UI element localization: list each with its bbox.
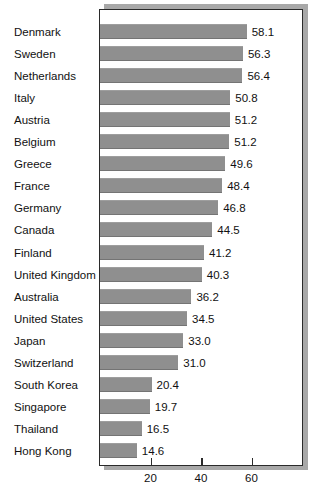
bar-row: Greece49.6 (0, 153, 316, 175)
bar-value-label: 40.3 (207, 264, 229, 286)
bar (100, 267, 202, 282)
bar-row: France48.4 (0, 175, 316, 197)
bar (100, 156, 225, 171)
bar-value-label: 51.2 (235, 109, 257, 131)
x-axis-tick-label: 20 (131, 472, 171, 484)
bar (100, 112, 230, 127)
bar-row: Netherlands56.4 (0, 65, 316, 87)
bar-value-label: 34.5 (192, 308, 214, 330)
category-label: Hong Kong (14, 440, 72, 462)
category-label: Finland (14, 242, 52, 264)
bar-value-label: 19.7 (155, 396, 177, 418)
bar-row: South Korea20.4 (0, 374, 316, 396)
bar (100, 377, 152, 392)
bar-value-label: 56.4 (247, 65, 269, 87)
bar-value-label: 50.8 (235, 87, 257, 109)
bar-row: Thailand16.5 (0, 418, 316, 440)
bar-value-label: 33.0 (188, 330, 210, 352)
category-label: Italy (14, 87, 35, 109)
bar-value-label: 14.6 (142, 440, 164, 462)
bar (100, 222, 212, 237)
bar-row: Sweden56.3 (0, 43, 316, 65)
category-label: Canada (14, 219, 54, 241)
bar-value-label: 56.3 (248, 43, 270, 65)
category-label: Denmark (14, 21, 61, 43)
category-label: Austria (14, 109, 50, 131)
bar (100, 68, 242, 83)
x-axis-tick (201, 458, 203, 465)
bar (100, 289, 191, 304)
category-label: Greece (14, 153, 52, 175)
category-label: Thailand (14, 418, 58, 440)
bar (100, 90, 230, 105)
bar-row: Finland41.2 (0, 242, 316, 264)
x-axis-tick-label: 60 (232, 472, 272, 484)
bar-value-label: 49.6 (230, 153, 252, 175)
bar-row: United Kingdom40.3 (0, 264, 316, 286)
category-label: United Kingdom (14, 264, 96, 286)
bar (100, 200, 218, 215)
bar-row: Hong Kong14.6 (0, 440, 316, 462)
bar (100, 333, 183, 348)
x-axis-tick-label: 40 (181, 472, 221, 484)
bar-value-label: 46.8 (223, 197, 245, 219)
x-axis-tick (252, 458, 254, 465)
category-label: Netherlands (14, 65, 76, 87)
bar-value-label: 16.5 (147, 418, 169, 440)
bar-row: Denmark58.1 (0, 21, 316, 43)
bar (100, 311, 187, 326)
category-label: France (14, 175, 50, 197)
bar-value-label: 41.2 (209, 242, 231, 264)
x-axis-tick (151, 458, 153, 465)
bar (100, 46, 243, 61)
bar-row: Singapore19.7 (0, 396, 316, 418)
bar-value-label: 51.2 (234, 131, 256, 153)
category-label: Singapore (14, 396, 66, 418)
bar-row: Italy50.8 (0, 87, 316, 109)
bar (100, 24, 247, 39)
bar-value-label: 20.4 (157, 374, 179, 396)
category-label: Australia (14, 286, 59, 308)
category-label: South Korea (14, 374, 78, 396)
bar (100, 134, 229, 149)
bar-row: Austria51.2 (0, 109, 316, 131)
bar-value-label: 44.5 (217, 219, 239, 241)
category-label: Germany (14, 197, 61, 219)
bar (100, 443, 137, 458)
category-label: Belgium (14, 131, 56, 153)
bar-value-label: 58.1 (252, 21, 274, 43)
bar (100, 355, 178, 370)
bar (100, 178, 222, 193)
bar-value-label: 48.4 (227, 175, 249, 197)
bar-chart: Denmark58.1Sweden56.3Netherlands56.4Ital… (0, 0, 316, 503)
bar-value-label: 36.2 (196, 286, 218, 308)
category-label: United States (14, 308, 83, 330)
bar-row: Canada44.5 (0, 219, 316, 241)
bar-row: Germany46.8 (0, 197, 316, 219)
bar (100, 399, 150, 414)
bar-value-label: 31.0 (183, 352, 205, 374)
bar-row: Switzerland31.0 (0, 352, 316, 374)
bar-row: Japan33.0 (0, 330, 316, 352)
bar-row: Australia36.2 (0, 286, 316, 308)
bar-row: United States34.5 (0, 308, 316, 330)
bar (100, 421, 142, 436)
category-label: Sweden (14, 43, 56, 65)
category-label: Japan (14, 330, 45, 352)
bar-row: Belgium51.2 (0, 131, 316, 153)
category-label: Switzerland (14, 352, 73, 374)
bar (100, 245, 204, 260)
